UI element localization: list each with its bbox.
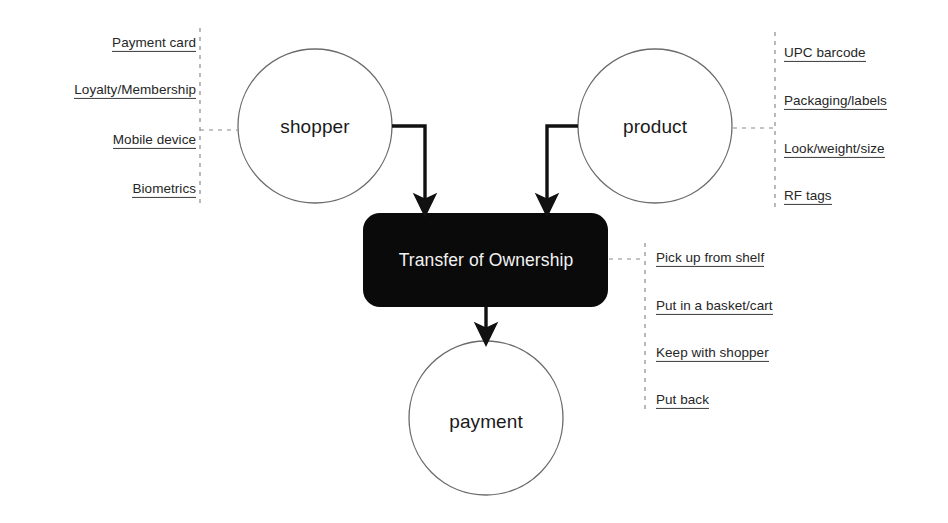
transfer-annotation-pick-up-from-shelf: Pick up from shelf	[656, 251, 764, 267]
diagram-canvas: shopper product payment Transfer of Owne…	[0, 0, 948, 523]
payment-node-label: payment	[449, 411, 523, 433]
transfer-annotation-put-in-basket-cart: Put in a basket/cart	[656, 299, 773, 315]
product-annotation-rf-tags: RF tags	[784, 189, 832, 205]
shopper-annotation-payment-card: Payment card	[112, 36, 196, 52]
product-node-label: product	[623, 116, 687, 138]
shopper-annotation-loyalty-membership: Loyalty/Membership	[74, 83, 196, 99]
shopper-annotation-biometrics: Biometrics	[132, 182, 196, 198]
product-to-transfer-arrow	[547, 126, 578, 205]
shopper-node-label: shopper	[280, 116, 349, 138]
product-annotation-packaging-labels: Packaging/labels	[784, 94, 887, 110]
shopper-annotation-mobile-device: Mobile device	[113, 133, 196, 149]
shopper-to-transfer-arrow	[392, 126, 425, 205]
transfer-annotation-put-back: Put back	[656, 393, 709, 409]
product-annotation-upc-barcode: UPC barcode	[784, 46, 866, 62]
product-annotation-look-weight-size: Look/weight/size	[784, 142, 885, 158]
transfer-of-ownership-label: Transfer of Ownership	[399, 250, 574, 271]
transfer-annotation-keep-with-shopper: Keep with shopper	[656, 346, 769, 362]
